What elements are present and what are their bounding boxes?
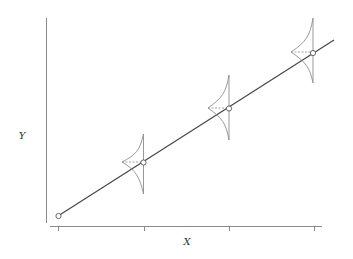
regression-diagram: X Y (0, 0, 353, 259)
data-point (310, 50, 315, 55)
normal-curve-4 (291, 18, 316, 83)
data-point (226, 106, 231, 111)
regression-line (58, 40, 334, 216)
normal-curve-2 (122, 134, 146, 194)
x-axis-label: X (182, 236, 191, 247)
normal-curve-3 (208, 75, 232, 140)
y-axis-label: Y (19, 130, 27, 141)
data-point (141, 160, 146, 165)
data-point (56, 213, 61, 218)
